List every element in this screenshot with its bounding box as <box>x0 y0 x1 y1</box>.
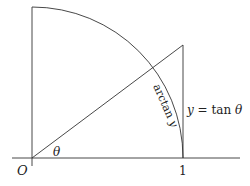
tan-label: y = tan θ <box>186 103 243 117</box>
tan-label-theta: θ <box>235 103 243 117</box>
unit-label: 1 <box>179 164 187 178</box>
origin-label: O <box>17 163 28 178</box>
arc-label: arctan y <box>150 82 181 130</box>
tan-label-eq: = tan <box>194 103 235 117</box>
angle-label: θ <box>53 145 61 159</box>
arc-label-arctan: arctan <box>150 82 178 123</box>
arctan-diagram: O 1 θ y = tan θ arctan y <box>0 0 250 186</box>
